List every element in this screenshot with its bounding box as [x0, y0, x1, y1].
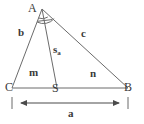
segment-label-n: n [90, 68, 96, 79]
median-label-subscript: a [57, 49, 61, 57]
dimension-label-a: a [68, 108, 74, 119]
dimension-arrow-left-icon [20, 100, 27, 106]
vertex-label-a: A [28, 2, 37, 14]
figure-canvas [0, 0, 144, 124]
side-label-b: b [18, 27, 24, 38]
segment-label-m: m [29, 67, 38, 78]
side-label-c: c [81, 28, 86, 39]
vertex-label-c: C [5, 81, 13, 93]
vertex-label-s: S [52, 82, 59, 94]
vertex-label-b: B [124, 81, 132, 93]
median-label-sa: sa [53, 44, 61, 55]
geometry-figure: A C S B b c m n a sa [0, 0, 144, 124]
dimension-arrow-right-icon [113, 100, 120, 106]
